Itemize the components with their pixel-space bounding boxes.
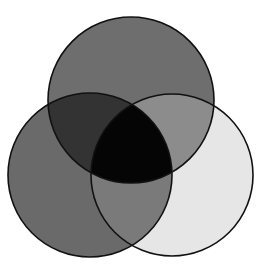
venn-diagram: [0, 0, 265, 273]
venn-diagram-svg: [0, 0, 265, 273]
